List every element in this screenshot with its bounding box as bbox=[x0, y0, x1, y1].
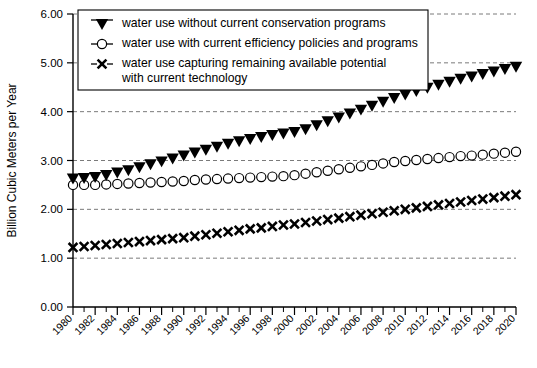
data-point bbox=[190, 175, 199, 184]
data-point bbox=[445, 152, 454, 161]
data-point bbox=[246, 173, 255, 182]
chart-canvas: 0.001.002.003.004.005.006.00198019821984… bbox=[0, 0, 537, 368]
y-axis-title: Billion Cubic Meters per Year bbox=[5, 83, 19, 237]
data-point bbox=[124, 179, 133, 188]
data-point bbox=[201, 175, 210, 184]
data-point bbox=[257, 173, 266, 182]
data-point bbox=[157, 177, 166, 186]
y-tick-label: 1.00 bbox=[41, 252, 63, 264]
data-point bbox=[301, 169, 310, 178]
water-use-chart: 0.001.002.003.004.005.006.00198019821984… bbox=[0, 0, 537, 368]
data-point bbox=[456, 152, 465, 161]
data-point bbox=[223, 174, 232, 183]
data-point bbox=[323, 166, 332, 175]
data-point bbox=[423, 154, 432, 163]
data-point bbox=[179, 176, 188, 185]
legend-label: with current technology bbox=[121, 71, 248, 85]
legend-label: water use without current conservation p… bbox=[121, 16, 386, 30]
data-point bbox=[379, 159, 388, 168]
data-point bbox=[312, 168, 321, 177]
y-tick-label: 3.00 bbox=[41, 155, 63, 167]
y-tick-label: 2.00 bbox=[41, 203, 63, 215]
data-point bbox=[511, 147, 520, 156]
data-point bbox=[467, 151, 476, 160]
data-point bbox=[146, 178, 155, 187]
legend-item-0[interactable]: water use without current conservation p… bbox=[91, 16, 386, 30]
legend-item-1[interactable]: water use with current efficiency polici… bbox=[91, 36, 418, 50]
data-point bbox=[434, 153, 443, 162]
y-tick-label: 6.00 bbox=[41, 8, 63, 20]
data-point bbox=[268, 172, 277, 181]
data-point bbox=[113, 179, 122, 188]
data-point bbox=[390, 157, 399, 166]
data-point bbox=[290, 171, 299, 180]
data-point bbox=[102, 180, 111, 189]
legend-label: water use capturing remaining available … bbox=[121, 56, 386, 70]
data-point bbox=[212, 174, 221, 183]
data-point bbox=[401, 156, 410, 165]
data-point bbox=[500, 148, 509, 157]
data-point bbox=[412, 155, 421, 164]
y-tick-label: 5.00 bbox=[41, 57, 63, 69]
data-point bbox=[135, 178, 144, 187]
data-point bbox=[356, 162, 365, 171]
y-tick-label: 4.00 bbox=[41, 106, 63, 118]
data-point bbox=[489, 149, 498, 158]
data-point bbox=[478, 150, 487, 159]
legend: water use without current conservation p… bbox=[78, 10, 428, 90]
data-point bbox=[334, 165, 343, 174]
data-point bbox=[367, 160, 376, 169]
data-point bbox=[345, 163, 354, 172]
data-point bbox=[168, 177, 177, 186]
y-tick-label: 0.00 bbox=[41, 301, 63, 313]
legend-marker-open-circle bbox=[97, 39, 106, 48]
data-point bbox=[279, 172, 288, 181]
legend-label: water use with current efficiency polici… bbox=[121, 36, 418, 50]
data-point bbox=[235, 173, 244, 182]
